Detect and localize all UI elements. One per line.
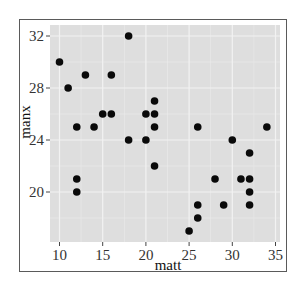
data-point	[246, 201, 254, 209]
y-axis-title: manx	[17, 105, 33, 139]
data-point	[64, 84, 72, 92]
data-point	[246, 188, 254, 196]
data-point	[185, 227, 193, 235]
x-tick-label: 30	[225, 247, 240, 263]
data-point	[151, 110, 159, 118]
data-point	[194, 123, 202, 131]
y-tick-label: 32	[29, 28, 44, 44]
x-tick-label: 25	[182, 247, 197, 263]
scatter-plot: 101520253035 20242832 matt manx	[0, 0, 303, 289]
data-point	[151, 97, 159, 105]
y-tick-label: 20	[29, 184, 44, 200]
data-point	[246, 149, 254, 157]
data-point	[151, 123, 159, 131]
x-tick-label: 15	[95, 247, 110, 263]
data-point	[211, 175, 219, 183]
data-point	[73, 123, 81, 131]
data-point	[220, 201, 228, 209]
data-point	[237, 175, 245, 183]
data-point	[142, 136, 150, 144]
data-point	[90, 123, 98, 131]
data-point	[56, 58, 64, 66]
data-point	[194, 201, 202, 209]
plot-panel	[50, 25, 280, 242]
data-point	[108, 110, 116, 118]
data-point	[246, 175, 254, 183]
data-point	[229, 136, 237, 144]
x-tick-label: 35	[268, 247, 283, 263]
data-point	[125, 136, 133, 144]
data-point	[151, 162, 159, 170]
data-point	[73, 188, 81, 196]
data-point	[263, 123, 271, 131]
x-tick-label: 20	[138, 247, 153, 263]
data-point	[142, 110, 150, 118]
data-point	[194, 214, 202, 222]
data-point	[108, 71, 116, 79]
data-point	[73, 175, 81, 183]
y-tick-label: 28	[29, 80, 44, 96]
data-point	[82, 71, 90, 79]
data-point	[125, 32, 133, 40]
x-tick-label: 10	[52, 247, 67, 263]
data-point	[99, 110, 107, 118]
x-axis-title: matt	[155, 257, 182, 273]
